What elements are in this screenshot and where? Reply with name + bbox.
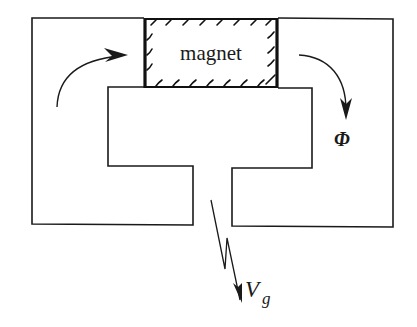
flux-arrow-left-icon (57, 48, 128, 107)
voltage-arrow-icon (211, 200, 242, 303)
magnetic-circuit-diagram: magnet Φ V g (0, 0, 417, 327)
magnet: magnet (144, 18, 278, 88)
flux-label: Φ (334, 128, 350, 150)
voltage-label-subscript: g (262, 289, 271, 308)
voltage-label: V (245, 277, 262, 302)
magnet-label: magnet (180, 41, 242, 65)
